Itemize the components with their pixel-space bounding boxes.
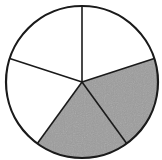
fraction-circle [0, 0, 162, 160]
